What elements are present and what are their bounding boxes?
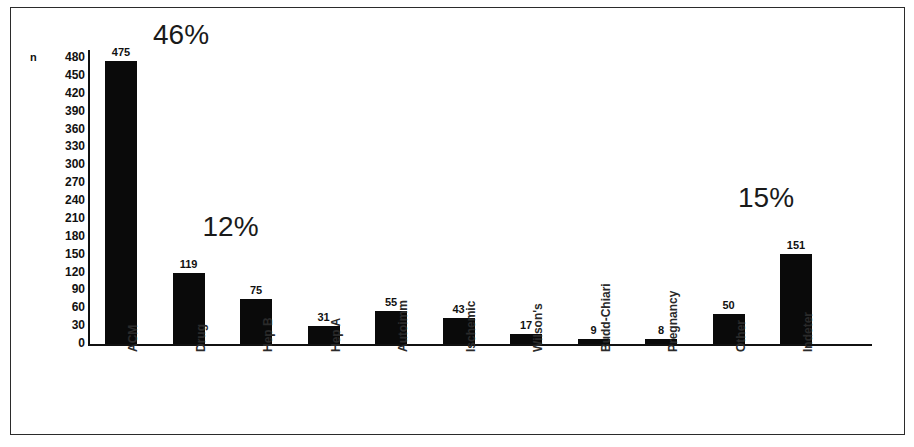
y-tick-480: 480 bbox=[41, 50, 85, 64]
x-label-acm: ACM bbox=[126, 325, 140, 352]
annotation-drug: 12% bbox=[203, 211, 259, 243]
x-label-wilson-s: Wilson's bbox=[531, 303, 545, 352]
x-label-other: Other bbox=[734, 320, 748, 352]
y-axis-unit-label: n bbox=[30, 51, 37, 63]
x-label-hep-b: Hep B bbox=[261, 317, 275, 352]
bar-value-label: 151 bbox=[766, 239, 826, 251]
bar-value-label: 55 bbox=[361, 296, 421, 308]
y-tick-270: 270 bbox=[41, 175, 85, 189]
x-label-indeter: Indeter bbox=[801, 312, 815, 352]
bar-value-label: 8 bbox=[631, 324, 691, 336]
plot-area: n 48045042039036033030027024021018015012… bbox=[0, 0, 914, 447]
x-label-budd-chiari: Budd-Chiari bbox=[599, 283, 613, 352]
bar-value-label: 9 bbox=[564, 324, 624, 336]
y-tick-0: 0 bbox=[41, 336, 85, 350]
y-tick-420: 420 bbox=[41, 86, 85, 100]
x-label-hep-a: Hep A bbox=[329, 318, 343, 352]
y-tick-450: 450 bbox=[41, 68, 85, 82]
y-tick-60: 60 bbox=[41, 300, 85, 314]
y-tick-240: 240 bbox=[41, 193, 85, 207]
y-tick-30: 30 bbox=[41, 318, 85, 332]
y-tick-300: 300 bbox=[41, 157, 85, 171]
bar-value-label: 17 bbox=[496, 319, 556, 331]
y-tick-180: 180 bbox=[41, 229, 85, 243]
x-label-autoimm: Autoimm bbox=[396, 300, 410, 352]
y-axis-line bbox=[88, 50, 90, 346]
y-tick-330: 330 bbox=[41, 139, 85, 153]
y-tick-90: 90 bbox=[41, 282, 85, 296]
x-label-pregnancy: Pregnancy bbox=[666, 291, 680, 352]
bar-value-label: 50 bbox=[699, 299, 759, 311]
x-label-ischemic: Ischemic bbox=[464, 301, 478, 352]
annotation-acm: 46% bbox=[153, 19, 209, 51]
chart-figure: n 48045042039036033030027024021018015012… bbox=[0, 0, 914, 447]
y-tick-360: 360 bbox=[41, 122, 85, 136]
y-tick-390: 390 bbox=[41, 104, 85, 118]
bar-value-label: 119 bbox=[159, 258, 219, 270]
y-tick-120: 120 bbox=[41, 265, 85, 279]
bar-value-label: 75 bbox=[226, 284, 286, 296]
x-label-drug: Drug bbox=[194, 324, 208, 352]
bar-value-label: 31 bbox=[294, 311, 354, 323]
bar-value-label: 43 bbox=[429, 303, 489, 315]
annotation-indeter: 15% bbox=[738, 182, 794, 214]
y-tick-210: 210 bbox=[41, 211, 85, 225]
bar-acm bbox=[105, 61, 137, 344]
y-tick-150: 150 bbox=[41, 247, 85, 261]
bar-value-label: 475 bbox=[91, 46, 151, 58]
